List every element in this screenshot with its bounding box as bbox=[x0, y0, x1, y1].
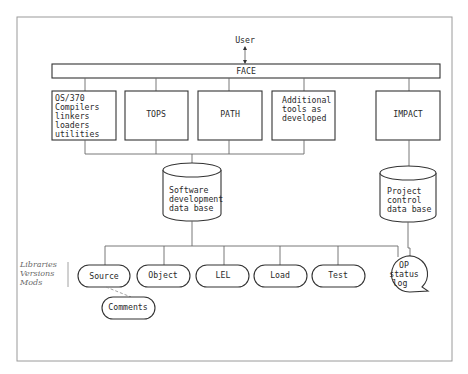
project-control-database: Project control data base bbox=[380, 166, 436, 222]
svg-text:LEL: LEL bbox=[216, 270, 231, 280]
tool-box-path: PATH bbox=[198, 91, 262, 140]
bidirectional-arrow-icon bbox=[243, 46, 247, 64]
software-development-database: Software development data base bbox=[163, 163, 223, 221]
comments-connector bbox=[106, 287, 131, 297]
svg-text:utilities: utilities bbox=[55, 129, 99, 139]
op-status-log: OP status log bbox=[389, 256, 428, 292]
svg-text:data base: data base bbox=[387, 204, 431, 214]
svg-text:Comments: Comments bbox=[108, 302, 148, 312]
comments-node: Comments bbox=[102, 297, 155, 319]
system-architecture-diagram: User FACE OS/370 Compilers linkers loade… bbox=[0, 0, 468, 374]
svg-text:Load: Load bbox=[270, 270, 290, 280]
library-load: Load bbox=[254, 265, 307, 287]
svg-text:Libraries: Libraries bbox=[19, 260, 57, 269]
svg-text:data base: data base bbox=[169, 203, 213, 213]
svg-text:Test: Test bbox=[328, 270, 348, 280]
svg-text:FACE: FACE bbox=[236, 66, 256, 76]
libraries-versions-mods-note: Libraries Versions Mods bbox=[19, 260, 68, 287]
tool-box-os370: OS/370 Compilers linkers loaders utiliti… bbox=[52, 91, 116, 140]
user-label: User bbox=[235, 35, 255, 45]
svg-text:Object: Object bbox=[148, 270, 178, 280]
svg-text:IMPACT: IMPACT bbox=[393, 109, 423, 119]
svg-text:log: log bbox=[393, 278, 408, 288]
svg-text:Versions: Versions bbox=[20, 269, 54, 278]
library-lel: LEL bbox=[196, 265, 249, 287]
tool-box-additional-tools: Additional tools as developed bbox=[272, 91, 335, 140]
svg-text:TOPS: TOPS bbox=[146, 109, 166, 119]
tool-box-impact: IMPACT bbox=[376, 91, 440, 140]
tool-box-tops: TOPS bbox=[125, 91, 188, 140]
library-test: Test bbox=[312, 265, 365, 287]
svg-text:Source: Source bbox=[89, 271, 119, 281]
svg-text:developed: developed bbox=[282, 113, 326, 123]
library-object: Object bbox=[137, 265, 190, 287]
face-bar: FACE bbox=[52, 64, 440, 78]
library-source: Source bbox=[78, 265, 130, 287]
svg-text:Mods: Mods bbox=[19, 278, 42, 287]
svg-text:PATH: PATH bbox=[220, 109, 240, 119]
